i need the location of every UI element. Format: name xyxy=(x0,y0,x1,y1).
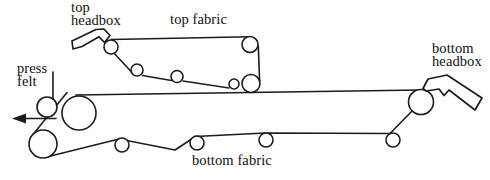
carrying-roll-3 xyxy=(259,133,273,147)
label-press-felt: press felt xyxy=(17,62,47,88)
top-fabric-couch-roll xyxy=(242,75,260,93)
top-fabric-guide-roll-2 xyxy=(171,71,183,83)
top-fabric-forming-run-2 xyxy=(143,76,172,81)
label-top-fabric: top fabric xyxy=(170,13,227,26)
top-fabric-forming-run-1 xyxy=(113,52,132,72)
top-fabric-breast-roll xyxy=(104,40,118,54)
label-bottom-headbox: bottom headbox xyxy=(432,42,482,68)
turning-roll xyxy=(29,130,57,158)
forming-roll xyxy=(62,96,96,130)
top-fabric-forming-run-3 xyxy=(183,81,229,88)
carrying-roll-4 xyxy=(386,133,400,147)
carrying-roll-2 xyxy=(190,136,204,150)
paper-machine-former-diagram: top headbox top fabric bottom headbox pr… xyxy=(0,0,490,180)
top-fabric-guide-roll-3 xyxy=(229,79,239,89)
press-felt-roll xyxy=(37,97,57,117)
top-fabric-guide-roll-1 xyxy=(131,64,143,76)
label-top-headbox: top headbox xyxy=(71,1,121,27)
bottom-fabric-rolls xyxy=(29,90,434,159)
top-fabric-right-run xyxy=(258,46,259,81)
label-bottom-fabric: bottom fabric xyxy=(192,154,272,167)
breast-roll-right xyxy=(409,90,434,115)
carrying-roll-1 xyxy=(115,138,129,152)
top-fabric-rolls xyxy=(104,37,260,93)
top-fabric-return-roll xyxy=(242,37,258,53)
left-arrow-icon xyxy=(12,114,26,124)
top-fabric-top-run xyxy=(111,37,250,40)
bottom-fabric-bottom-run xyxy=(47,109,415,157)
